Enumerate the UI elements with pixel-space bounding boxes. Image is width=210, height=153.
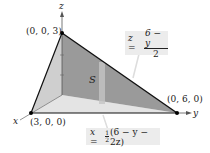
surface-label: S bbox=[89, 75, 96, 85]
z-equation-box: z = 6 − y2 bbox=[125, 31, 168, 55]
z-axis-label: z bbox=[59, 2, 64, 11]
slice-strip bbox=[99, 62, 105, 104]
vertex-label-y: (0, 6, 0) bbox=[167, 95, 203, 104]
vertex-label-x: (3, 0, 0) bbox=[30, 118, 66, 127]
plane-diagram: z x y (0, 0, 3) (3, 0, 0) (0, 6, 0) S z … bbox=[0, 0, 210, 153]
vertex-dot bbox=[175, 111, 179, 115]
vertex-dot bbox=[29, 111, 33, 115]
vertex-label-z: (0, 0, 3) bbox=[26, 27, 62, 36]
x-axis-label: x bbox=[13, 117, 18, 126]
y-axis-label: y bbox=[193, 109, 198, 118]
y-arrow-icon bbox=[186, 111, 192, 115]
x-equation-box: x = 12 (6 − y − 2z) bbox=[86, 128, 160, 145]
z-arrow-icon bbox=[60, 11, 64, 17]
